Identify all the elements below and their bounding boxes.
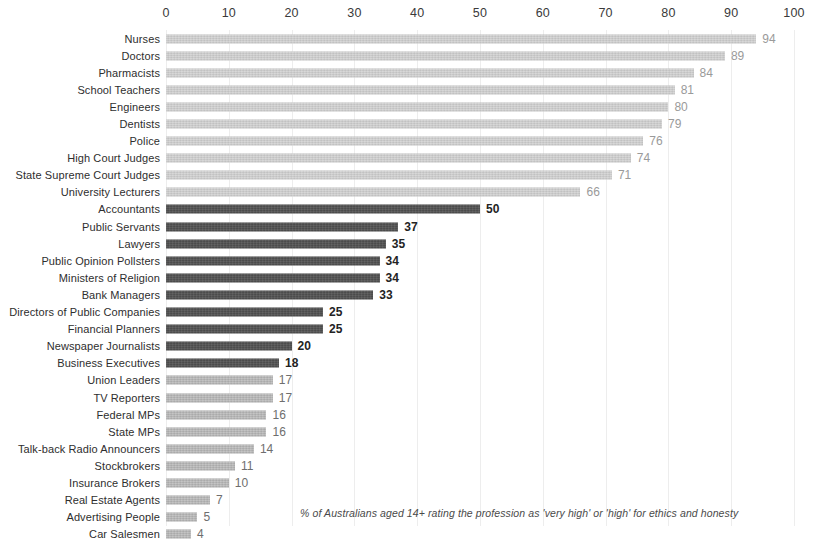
bar-value-label: 35 [392,237,405,251]
chart-row: Nurses94 [0,30,816,47]
bar [166,188,580,197]
bar [166,342,292,351]
x-axis-tick-label: 10 [222,6,236,20]
bar-value-label: 66 [586,185,599,199]
category-label: Public Opinion Pollsters [41,255,160,267]
bar-container [166,410,266,419]
bar-container [166,222,398,231]
bar-container [166,496,210,505]
bar [166,496,210,505]
bar [166,205,480,214]
category-label: Car Salesmen [89,528,160,540]
category-label: Newspaper Journalists [47,340,160,352]
bar-container [166,461,235,470]
x-axis-tick-label: 80 [661,6,675,20]
bar-container [166,188,580,197]
bar-container [166,34,756,43]
chart-row: Public Opinion Pollsters34 [0,252,816,269]
bar-value-label: 17 [279,373,292,387]
bar [166,444,254,453]
chart-row: State MPs16 [0,423,816,440]
x-axis-tick-label: 40 [410,6,424,20]
category-label: Advertising People [66,511,160,523]
bar-value-label: 80 [674,100,687,114]
bar-container [166,137,643,146]
chart-row: Stockbrokers11 [0,457,816,474]
chart-row: Financial Planners25 [0,321,816,338]
bar-container [166,513,197,522]
category-label: Union Leaders [87,374,160,386]
bar-container [166,290,373,299]
chart-row: Directors of Public Companies25 [0,304,816,321]
category-label: Federal MPs [97,409,160,421]
category-label: Pharmacists [98,67,160,79]
category-label: TV Reporters [93,392,160,404]
chart-row: Dentists79 [0,115,816,132]
bar-container [166,530,191,539]
bar-value-label: 81 [681,83,694,97]
category-label: Financial Planners [68,323,160,335]
chart-row: State Supreme Court Judges71 [0,167,816,184]
bar-value-label: 25 [329,322,342,336]
bar-container [166,68,694,77]
category-label: Accountants [98,203,160,215]
bar-value-label: 20 [298,339,311,353]
bar [166,308,323,317]
bar [166,120,662,129]
bar-value-label: 34 [386,254,399,268]
bar-value-label: 10 [235,476,248,490]
bar [166,154,631,163]
bar-value-label: 17 [279,391,292,405]
chart-row: School Teachers81 [0,81,816,98]
bar-value-label: 94 [762,32,775,46]
category-label: Ministers of Religion [59,272,160,284]
bar-value-label: 33 [379,288,392,302]
chart-rows: Nurses94Doctors89Pharmacists84School Tea… [0,30,816,543]
bar-value-label: 71 [618,168,631,182]
chart-annotation: % of Australians aged 14+ rating the pro… [300,507,738,519]
bar [166,393,273,402]
bar-value-label: 89 [731,49,744,63]
bar-container [166,273,380,282]
category-label: Engineers [110,101,160,113]
chart-row: Talk-back Radio Announcers14 [0,440,816,457]
x-axis-tick-label: 60 [536,6,550,20]
category-label: Doctors [121,50,160,62]
category-label: Lawyers [118,238,160,250]
bar-value-label: 14 [260,442,273,456]
x-axis-tick-label: 70 [598,6,612,20]
category-label: Dentists [119,118,160,130]
bar-container [166,205,480,214]
bar-value-label: 34 [386,271,399,285]
category-label: State MPs [108,426,160,438]
bar-value-label: 76 [649,134,662,148]
category-label: Stockbrokers [95,460,160,472]
bar [166,376,273,385]
bar [166,427,266,436]
bar-container [166,478,229,487]
bar [166,239,386,248]
category-label: Insurance Brokers [69,477,160,489]
bar [166,273,380,282]
bar [166,51,725,60]
category-label: University Lecturers [61,186,160,198]
bar-container [166,102,668,111]
bar-value-label: 18 [285,356,298,370]
bar-container [166,85,675,94]
chart-row: Union Leaders17 [0,372,816,389]
chart-row: Doctors89 [0,47,816,64]
chart-row: Public Servants37 [0,218,816,235]
bar-value-label: 84 [700,66,713,80]
bar-container [166,427,266,436]
bar-value-label: 37 [404,220,417,234]
bar [166,68,694,77]
bar [166,256,380,265]
bar-value-label: 11 [241,459,253,473]
bar-container [166,325,323,334]
chart-row: Bank Managers33 [0,286,816,303]
category-label: Nurses [125,33,160,45]
x-axis-tick-label: 30 [347,6,361,20]
chart-row: Newspaper Journalists20 [0,338,816,355]
bar-container [166,342,292,351]
category-label: High Court Judges [67,152,160,164]
